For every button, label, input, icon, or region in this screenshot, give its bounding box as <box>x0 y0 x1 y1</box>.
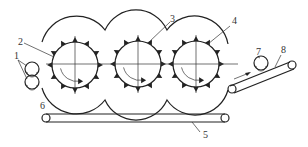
feed-rollers <box>25 62 39 90</box>
part-label-8: 8 <box>281 44 286 55</box>
part-label-4: 4 <box>232 15 237 26</box>
drum-tooth <box>72 37 78 42</box>
drum-tooth <box>98 62 103 68</box>
exit-roller <box>254 56 268 71</box>
part-label-5: 5 <box>203 129 208 140</box>
part-label-1: 1 <box>14 50 19 61</box>
rotation-arrow-icon <box>182 67 202 80</box>
rotation-arrow-icon <box>124 67 144 80</box>
drum-1 <box>47 36 103 94</box>
housing <box>42 10 228 120</box>
drum-tooth <box>135 36 141 41</box>
rotation-arrow-icon <box>61 68 81 81</box>
drum-tooth <box>72 88 78 93</box>
drum-tooth <box>47 62 52 68</box>
schematic-svg: 12345678 <box>0 0 308 147</box>
part-label-3: 3 <box>170 13 175 24</box>
part-label-2: 2 <box>18 36 23 47</box>
part-label-6: 6 <box>40 100 45 111</box>
drum-tooth <box>193 87 199 92</box>
drum-tooth <box>135 87 141 92</box>
drums-group <box>47 35 224 94</box>
part-label-7: 7 <box>256 46 261 57</box>
leader-lines <box>18 22 281 132</box>
direction-arrow <box>234 72 251 79</box>
drum-tooth <box>193 36 199 41</box>
bottom-conveyor <box>42 114 229 122</box>
diagram-canvas: 12345678 <box>0 0 308 147</box>
